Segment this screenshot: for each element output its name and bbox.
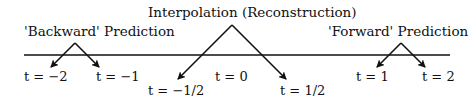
label-t-zero: t = 0 — [215, 70, 248, 83]
label-t-1: t = 1 — [356, 70, 389, 83]
label-t-minus-2: t = −2 — [24, 70, 68, 83]
prediction-diagram: 'Backward' Prediction Interpolation (Rec… — [0, 0, 469, 103]
label-t-half: t = 1/2 — [280, 84, 325, 97]
interpolation-title: Interpolation (Reconstruction) — [148, 6, 357, 20]
forward-prediction-title: 'Forward' Prediction — [328, 25, 468, 39]
label-t-2: t = 2 — [422, 70, 455, 83]
backward-prediction-title: 'Backward' Prediction — [24, 25, 175, 39]
label-t-minus-1: t = −1 — [96, 70, 140, 83]
label-t-minus-half: t = −1/2 — [148, 84, 204, 97]
